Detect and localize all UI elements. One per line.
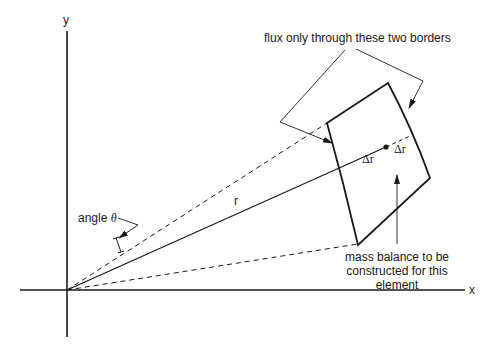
mass-balance-line2: constructed for this [346, 264, 447, 278]
delta-r-inner-label: Δr [362, 152, 374, 166]
lower-bound-dashed-line [67, 244, 358, 290]
y-axis-label: y [63, 13, 69, 27]
angle-tick [116, 238, 121, 252]
delta-r-outer-label: Δr [394, 142, 406, 156]
mass-balance-line3: element [376, 278, 419, 292]
upper-bound-dashed-line [67, 123, 327, 290]
angle-label: angle θ [78, 211, 117, 225]
angle-label-prefix: angle [78, 211, 111, 225]
x-axis-label: x [469, 283, 475, 297]
mass-balance-note: mass balance to be constructed for this … [345, 250, 449, 292]
flux-callout-outer [356, 49, 423, 108]
polar-mass-balance-diagram: y x flux only throug [0, 0, 488, 354]
angle-symbol: θ [111, 211, 117, 225]
flux-note: flux only through these two borders [264, 31, 451, 45]
angle-marker [113, 218, 138, 253]
radius-label: r [234, 194, 238, 208]
flux-callout-inner [280, 50, 345, 143]
mass-balance-line1: mass balance to be [345, 250, 449, 264]
element-outline [327, 83, 430, 245]
control-element [327, 83, 430, 245]
center-point [383, 144, 388, 149]
flux-callout [280, 49, 423, 143]
angle-callout-line [118, 218, 138, 238]
